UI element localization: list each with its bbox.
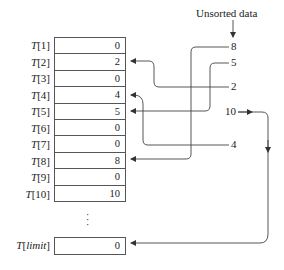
arrow-8-to-T8 [131, 47, 229, 159]
arrow-4-to-T4 [131, 95, 229, 145]
mapping-arrows [0, 0, 284, 270]
unsorted-value-4: 4 [231, 138, 237, 150]
arrow-10-to-T10 [131, 234, 268, 243]
unsorted-value-8: 8 [231, 40, 237, 52]
unsorted-value-5: 5 [231, 56, 237, 68]
unsorted-value-10: 10 [225, 105, 238, 117]
unsorted-data-label: Unsorted data [196, 7, 257, 19]
arrow-10-path [238, 112, 268, 234]
arrow-2-to-T2 [131, 61, 229, 87]
unsorted-value-2: 2 [231, 80, 237, 92]
